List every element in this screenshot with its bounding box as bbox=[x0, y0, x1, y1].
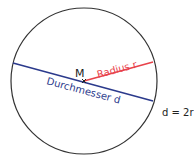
formula-label: d = 2r bbox=[162, 107, 194, 118]
radius-label: Radius r bbox=[96, 59, 139, 80]
circle-diagram: M Radius r Durchmesser d d = 2r bbox=[0, 0, 194, 166]
center-label: M bbox=[75, 67, 85, 80]
